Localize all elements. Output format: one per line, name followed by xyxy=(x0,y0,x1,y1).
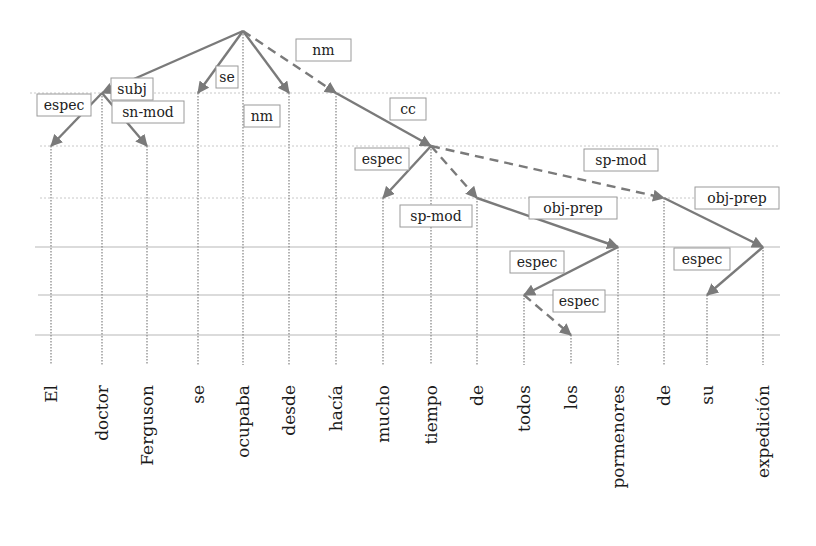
word-se: se xyxy=(188,385,208,404)
label-text: nm xyxy=(312,42,334,58)
edge-label-subj: subj xyxy=(111,78,153,100)
dependency-tree-diagram: subjsenmnmespecsn-modccespecsp-modsp-mod… xyxy=(0,0,816,546)
word-tiempo: tiempo xyxy=(421,385,441,445)
label-text: sp-mod xyxy=(410,208,462,224)
word-desde: desde xyxy=(279,385,299,436)
label-text: obj-prep xyxy=(707,190,766,206)
word-hacía: hacía xyxy=(326,385,346,431)
word-de: de xyxy=(467,385,487,406)
edge-label-espec: espec xyxy=(674,248,730,270)
edge-label-espec: espec xyxy=(37,94,91,116)
word-mucho: mucho xyxy=(373,385,393,443)
label-text: subj xyxy=(117,81,147,97)
label-text: espec xyxy=(44,97,85,113)
word-doctor: doctor xyxy=(92,384,112,441)
word-todos: todos xyxy=(514,385,534,432)
word-de: de xyxy=(654,385,674,406)
dependency-arrow-sp-mod xyxy=(431,146,477,198)
edge-label-espec: espec xyxy=(553,290,605,312)
word-pormenores: pormenores xyxy=(608,385,628,489)
word-ocupaba: ocupaba xyxy=(233,385,253,458)
edge-label-sn-mod: sn-mod xyxy=(112,101,184,123)
edge-label-sp-mod: sp-mod xyxy=(400,205,472,227)
word-su: su xyxy=(697,385,717,405)
label-text: sp-mod xyxy=(595,152,647,168)
dependency-arrow-nm xyxy=(243,31,289,93)
label-text: espec xyxy=(517,254,558,270)
edge-label-espec: espec xyxy=(355,148,409,170)
label-text: espec xyxy=(559,293,600,309)
label-text: espec xyxy=(362,151,403,167)
word-El: El xyxy=(41,385,61,403)
edge-label-obj-prep: obj-prep xyxy=(529,197,617,219)
sentence-words: EldoctorFergusonseocupabadesdehacíamucho… xyxy=(41,384,773,488)
edge-label-nm: nm xyxy=(244,105,280,127)
word-Ferguson: Ferguson xyxy=(137,385,157,466)
label-text: obj-prep xyxy=(543,200,602,216)
label-text: se xyxy=(219,69,234,85)
edge-label-espec: espec xyxy=(510,251,564,273)
edge-label-cc: cc xyxy=(390,98,426,120)
word-expedición: expedición xyxy=(753,385,773,478)
label-text: espec xyxy=(682,251,723,267)
edge-label-nm: nm xyxy=(296,39,351,61)
edge-label-sp-mod: sp-mod xyxy=(584,149,658,171)
edge-label-se: se xyxy=(216,66,238,88)
edge-label-obj-prep: obj-prep xyxy=(695,187,779,209)
dependency-edges xyxy=(51,31,763,335)
label-text: cc xyxy=(400,101,416,117)
label-text: nm xyxy=(251,108,273,124)
label-text: sn-mod xyxy=(122,104,174,120)
word-los: los xyxy=(561,385,581,409)
edge-labels: subjsenmnmespecsn-modccespecsp-modsp-mod… xyxy=(37,39,779,312)
